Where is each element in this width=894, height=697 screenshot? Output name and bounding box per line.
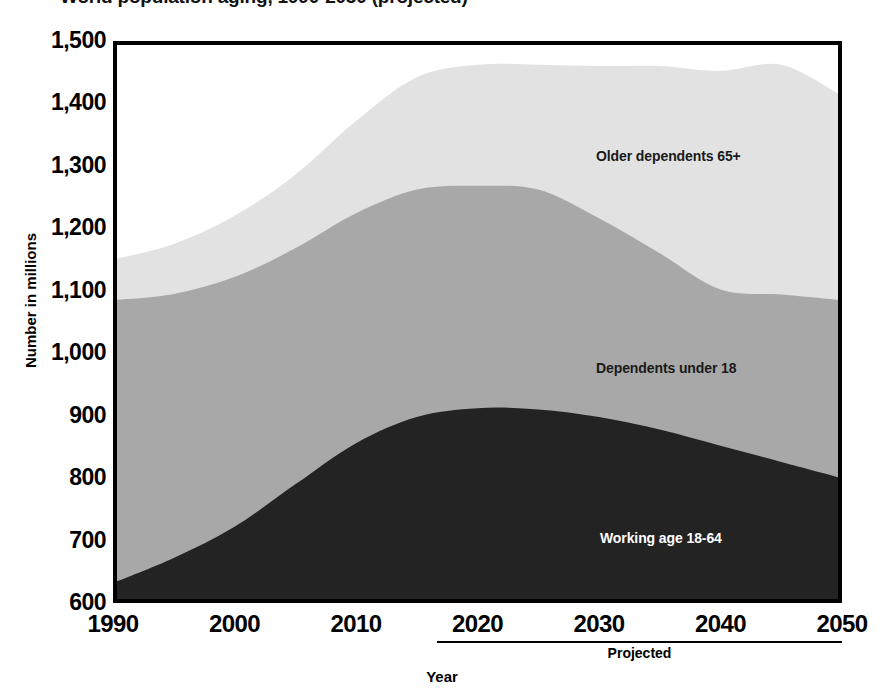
plot-area: [113, 41, 842, 603]
y-tick-label: 1,400: [20, 91, 106, 114]
stacked-area-chart: [113, 41, 842, 603]
projected-label: Projected: [437, 645, 842, 661]
x-axis-title: Year: [397, 668, 487, 685]
series-label-dependents-under-18: Dependents under 18: [596, 360, 736, 376]
x-tick-label: 2050: [797, 612, 887, 636]
y-tick-label: 700: [20, 529, 106, 552]
y-tick-label: 1,300: [20, 154, 106, 177]
y-tick-label: 1,100: [20, 279, 106, 302]
y-axis-tick-labels: 1,5001,4001,3001,2001,1001,0009008007006…: [14, 0, 106, 697]
y-tick-label: 1,500: [20, 29, 106, 52]
series-label-working-age: Working age 18-64: [600, 530, 722, 546]
y-tick-label: 1,000: [20, 341, 106, 364]
series-label-older-dependents: Older dependents 65+: [596, 148, 741, 164]
y-tick-label: 1,200: [20, 216, 106, 239]
x-tick-label: 2040: [676, 612, 766, 636]
x-tick-label: 2000: [190, 612, 280, 636]
y-tick-label: 900: [20, 404, 106, 427]
y-tick-label: 800: [20, 466, 106, 489]
chart-title: World population aging, 1990-2050 (proje…: [60, 0, 468, 8]
chart-container: World population aging, 1990-2050 (proje…: [0, 0, 894, 697]
projected-bracket-line: [437, 641, 842, 643]
x-tick-label: 2020: [433, 612, 523, 636]
x-tick-label: 2030: [554, 612, 644, 636]
x-tick-label: 1990: [68, 612, 158, 636]
x-tick-label: 2010: [311, 612, 401, 636]
